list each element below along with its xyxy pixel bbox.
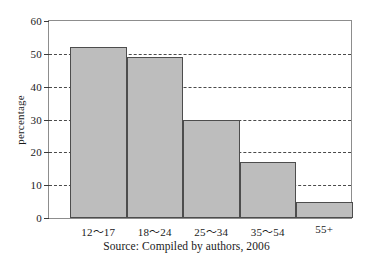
plot-area: 0102030405060 [48, 20, 352, 219]
y-tick-label-30: 30 [31, 114, 42, 125]
y-tick-label-10: 10 [31, 180, 42, 191]
y-axis-title: percentage [14, 95, 26, 145]
bar-0 [70, 47, 127, 218]
y-tick-label-50: 50 [31, 48, 42, 59]
y-tick-label-20: 20 [31, 147, 42, 158]
y-tick-label-0: 0 [36, 213, 42, 224]
x-axis-label-4: 55+ [296, 223, 353, 235]
chart-source-caption: Source: Compiled by authors, 2006 [0, 240, 373, 252]
y-tick-mark-10 [44, 185, 49, 186]
y-tick-mark-20 [44, 152, 49, 153]
bar-1 [127, 57, 184, 218]
x-axis-label-1: 18～24 [127, 223, 184, 239]
y-tick-mark-30 [44, 120, 49, 121]
y-tick-mark-40 [44, 87, 49, 88]
x-axis-label-0: 12～17 [70, 223, 127, 239]
bar-4 [296, 202, 353, 218]
y-tick-mark-60 [44, 21, 49, 22]
y-tick-mark-0 [44, 218, 49, 219]
bar-2 [183, 120, 240, 219]
y-tick-label-60: 60 [31, 16, 42, 27]
x-axis-label-3: 35～54 [240, 223, 297, 239]
x-axis-label-2: 25～34 [183, 223, 240, 239]
bar-chart-figure: percentage 0102030405060 12～1718～2425～34… [0, 0, 373, 261]
plot-inner: 0102030405060 [49, 21, 351, 218]
y-tick-label-40: 40 [31, 81, 42, 92]
y-tick-mark-50 [44, 54, 49, 55]
bar-3 [240, 162, 297, 218]
